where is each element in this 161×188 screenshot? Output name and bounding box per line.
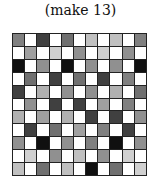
grid-cell [62, 137, 73, 149]
grid-cell [62, 163, 73, 175]
grid-cell [110, 60, 121, 72]
grid-cell [135, 137, 146, 149]
grid-cell [74, 47, 85, 59]
grid-cell [98, 150, 109, 162]
grid-cell [74, 73, 85, 85]
grid-cell [86, 73, 97, 85]
grid-cell [37, 111, 48, 123]
grid-cell [13, 47, 24, 59]
grid-cell [25, 150, 36, 162]
grid-cell [62, 73, 73, 85]
grid-cell [98, 163, 109, 175]
grid-cell [37, 99, 48, 111]
grid-cell [25, 34, 36, 46]
grid-cell [62, 86, 73, 98]
grid-cell [37, 163, 48, 175]
grid-cell [62, 111, 73, 123]
grid-cell [13, 150, 24, 162]
grid-cell [123, 137, 134, 149]
grid-cell [13, 99, 24, 111]
grid-cell [50, 124, 61, 136]
grid-cell [37, 60, 48, 72]
grid-cell [37, 34, 48, 46]
grid-cell [98, 124, 109, 136]
grid-cell [135, 99, 146, 111]
grid-cell [25, 47, 36, 59]
grid-cell [37, 150, 48, 162]
grid-cell [62, 60, 73, 72]
grid-cell [110, 99, 121, 111]
grid-cell [50, 73, 61, 85]
grid-cell [86, 150, 97, 162]
grid-cell [74, 124, 85, 136]
grid-cell [86, 34, 97, 46]
grid-cell [86, 86, 97, 98]
grid-cell [62, 124, 73, 136]
grid-cell [50, 47, 61, 59]
grid-cell [74, 150, 85, 162]
grid-cell [25, 137, 36, 149]
grid-cell [86, 137, 97, 149]
grid-cell [50, 86, 61, 98]
grid-cell [98, 47, 109, 59]
grid-cell [86, 60, 97, 72]
grid-cell [37, 124, 48, 136]
grid-cell [110, 150, 121, 162]
grid-cell [25, 99, 36, 111]
grid-cell [110, 47, 121, 59]
grid-cell [110, 73, 121, 85]
diagram-caption: (make 13) [0, 1, 161, 19]
grid-cell [86, 99, 97, 111]
grid-cell [86, 163, 97, 175]
grid-cell [74, 34, 85, 46]
grid-cell [74, 111, 85, 123]
grid-cell [110, 34, 121, 46]
grid-cell [135, 111, 146, 123]
grid-cell [98, 73, 109, 85]
grid-cell [135, 124, 146, 136]
grid-cell [74, 99, 85, 111]
grid-cell [110, 163, 121, 175]
grid-cell [135, 47, 146, 59]
grid-cell [13, 137, 24, 149]
shaded-grid [12, 33, 147, 176]
grid-cell [62, 47, 73, 59]
grid-cell [86, 124, 97, 136]
grid-cell [98, 111, 109, 123]
grid-cell [62, 150, 73, 162]
grid-cell [50, 34, 61, 46]
grid-cell [74, 60, 85, 72]
grid-cell [13, 163, 24, 175]
grid-cell [123, 99, 134, 111]
grid-cell [50, 60, 61, 72]
grid-cell [110, 124, 121, 136]
grid-cell [74, 137, 85, 149]
grid-cell [50, 111, 61, 123]
grid-cell [13, 86, 24, 98]
grid-cell [110, 86, 121, 98]
grid-cell [86, 111, 97, 123]
grid-cell [135, 73, 146, 85]
grid-cell [135, 163, 146, 175]
grid-cell [37, 47, 48, 59]
grid-cell [50, 99, 61, 111]
grid-cell [110, 137, 121, 149]
grid-cell [13, 124, 24, 136]
grid-cell [13, 73, 24, 85]
grid-cell [123, 150, 134, 162]
grid-cell [25, 86, 36, 98]
grid-cell [110, 111, 121, 123]
grid-cell [37, 73, 48, 85]
grid-cell [13, 60, 24, 72]
grid-cell [86, 47, 97, 59]
grid-cell [98, 34, 109, 46]
grid-cell [37, 137, 48, 149]
grid-cell [135, 60, 146, 72]
grid-cell [98, 86, 109, 98]
grid-cell [74, 86, 85, 98]
grid-cell [25, 73, 36, 85]
grid-cell [50, 150, 61, 162]
grid-cell [50, 163, 61, 175]
grid-cell [62, 34, 73, 46]
grid-cell [123, 111, 134, 123]
